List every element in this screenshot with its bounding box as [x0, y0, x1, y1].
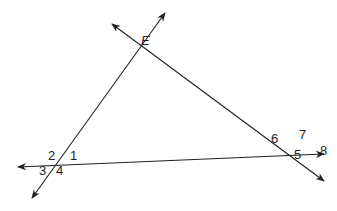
angle-label-8: 8	[320, 143, 327, 158]
point-label-e: E	[141, 33, 150, 48]
geometry-diagram: E 1 2 3 4 5 6 7 8	[0, 0, 337, 211]
angle-label-5: 5	[294, 147, 301, 162]
angle-label-2: 2	[48, 148, 55, 163]
angle-label-3: 3	[39, 163, 46, 178]
angle-label-1: 1	[70, 148, 77, 163]
angle-label-6: 6	[271, 131, 278, 146]
angle-label-4: 4	[56, 163, 63, 178]
angle-label-7: 7	[299, 127, 306, 142]
base-line	[18, 154, 324, 167]
